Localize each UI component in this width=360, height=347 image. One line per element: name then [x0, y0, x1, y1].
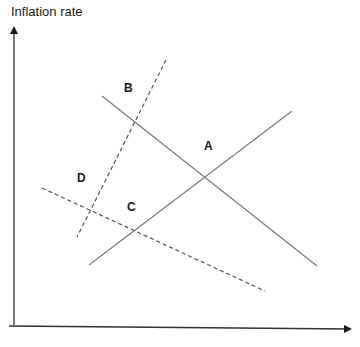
point-label-c: C: [127, 200, 136, 214]
point-label-d: D: [77, 171, 86, 185]
diagram-canvas: Inflation rate A B C D: [0, 0, 360, 347]
curve-downward-solid: [102, 96, 317, 266]
curve-steep-dashed: [77, 60, 166, 237]
curve-shallow-dashed: [42, 188, 265, 291]
point-label-b: B: [124, 81, 133, 95]
y-axis-label: Inflation rate: [11, 4, 83, 19]
curve-upward-solid: [89, 111, 292, 265]
point-label-a: A: [204, 139, 213, 153]
x-axis: [9, 326, 350, 329]
